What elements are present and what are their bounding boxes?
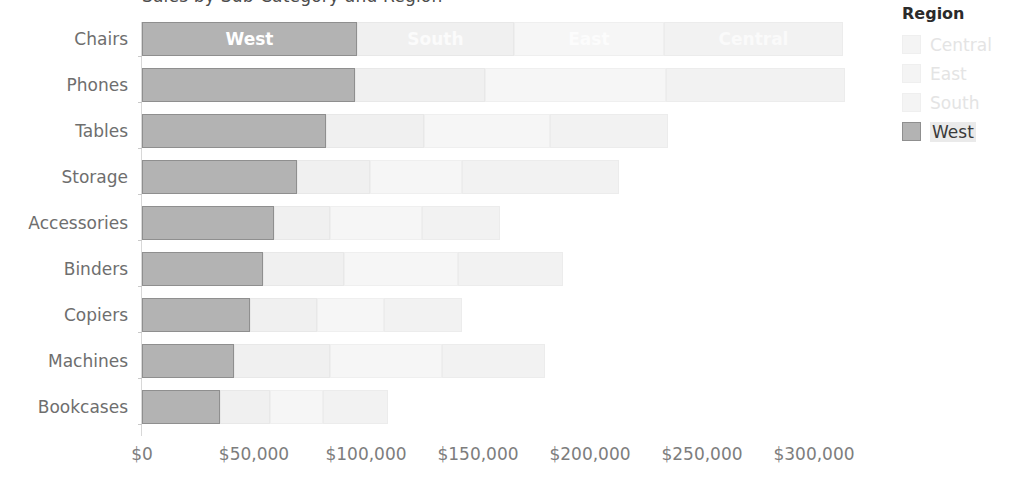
legend-title: Region xyxy=(902,4,1028,23)
bar-segment-south[interactable] xyxy=(234,344,330,378)
legend-swatch-icon xyxy=(902,35,921,54)
bar-segment-east[interactable] xyxy=(370,160,462,194)
bar-segment-east[interactable] xyxy=(330,344,442,378)
plot-area: WestSouthEastCentral xyxy=(142,22,870,434)
legend-swatch-icon xyxy=(902,64,921,83)
bar-row[interactable] xyxy=(142,68,845,102)
y-axis-category-label: Storage xyxy=(0,160,128,194)
y-axis-tick xyxy=(138,286,142,287)
y-axis-tick xyxy=(138,194,142,195)
bar-segment-south[interactable] xyxy=(263,252,344,286)
y-axis-category-label: Tables xyxy=(0,114,128,148)
bar-segment-east[interactable] xyxy=(330,206,422,240)
legend-item-list: CentralEastSouthWest xyxy=(902,32,1028,144)
bar-row[interactable] xyxy=(142,390,388,424)
page-title: Sales by Sub-Category and Region xyxy=(142,0,442,6)
y-axis-tick xyxy=(138,240,142,241)
bar-segment-west[interactable] xyxy=(142,390,220,424)
bar-row[interactable] xyxy=(142,252,563,286)
bar-segment-central[interactable] xyxy=(550,114,669,148)
x-axis-tick-label: $0 xyxy=(131,444,153,464)
y-axis-tick xyxy=(138,148,142,149)
bar-segment-south[interactable] xyxy=(326,114,425,148)
bar-segment-west[interactable] xyxy=(142,160,297,194)
x-axis-tick-label: $50,000 xyxy=(219,444,289,464)
bar-segment-east[interactable]: East xyxy=(514,22,664,56)
y-axis-tick xyxy=(138,102,142,103)
legend-item-east[interactable]: East xyxy=(902,61,1028,86)
bar-segment-label: Central xyxy=(719,29,789,49)
bar-row[interactable] xyxy=(142,298,462,332)
bar-segment-south[interactable] xyxy=(220,390,269,424)
bar-segment-east[interactable] xyxy=(344,252,458,286)
stacked-bar-chart: Sales by Sub-Category and Region WestSou… xyxy=(0,0,1028,494)
bar-segment-west[interactable] xyxy=(142,344,234,378)
bar-row[interactable] xyxy=(142,160,619,194)
bar-segment-south[interactable] xyxy=(355,68,485,102)
bar-segment-label: West xyxy=(226,29,274,49)
x-axis-tick-label: $250,000 xyxy=(661,444,742,464)
bar-segment-south[interactable] xyxy=(297,160,371,194)
bar-segment-west[interactable]: West xyxy=(142,22,357,56)
x-axis-tick-label: $300,000 xyxy=(773,444,854,464)
bar-segment-central[interactable] xyxy=(458,252,563,286)
bar-segment-west[interactable] xyxy=(142,298,250,332)
bar-segment-east[interactable] xyxy=(485,68,666,102)
bar-segment-west[interactable] xyxy=(142,206,274,240)
x-axis-tick-label: $150,000 xyxy=(437,444,518,464)
legend-item-label: West xyxy=(930,122,976,142)
x-axis-tick-label: $200,000 xyxy=(549,444,630,464)
bar-row[interactable] xyxy=(142,114,668,148)
bar-segment-central[interactable] xyxy=(422,206,500,240)
legend-item-central[interactable]: Central xyxy=(902,32,1028,57)
legend-item-south[interactable]: South xyxy=(902,90,1028,115)
legend-item-label: East xyxy=(930,64,967,84)
y-axis-category-label: Accessories xyxy=(0,206,128,240)
y-axis-tick xyxy=(138,378,142,379)
bar-segment-east[interactable] xyxy=(317,298,384,332)
bar-segment-central[interactable] xyxy=(323,390,388,424)
bar-segment-label: East xyxy=(568,29,609,49)
x-axis-tick-label: $100,000 xyxy=(325,444,406,464)
legend-swatch-icon xyxy=(902,93,921,112)
bar-row[interactable] xyxy=(142,344,545,378)
bar-segment-south[interactable] xyxy=(250,298,317,332)
legend-item-label: Central xyxy=(930,35,992,55)
bar-segment-central[interactable] xyxy=(384,298,462,332)
bar-segment-west[interactable] xyxy=(142,252,263,286)
x-axis: $0$50,000$100,000$150,000$200,000$250,00… xyxy=(0,444,1028,474)
y-axis-tick xyxy=(138,332,142,333)
bar-segment-central[interactable] xyxy=(442,344,545,378)
bar-segment-south[interactable] xyxy=(274,206,330,240)
y-axis-tick xyxy=(138,56,142,57)
y-axis-category-label: Machines xyxy=(0,344,128,378)
y-axis-tick xyxy=(138,424,142,425)
y-axis-category-label: Binders xyxy=(0,252,128,286)
bar-segment-central[interactable]: Central xyxy=(664,22,843,56)
y-axis-category-label: Bookcases xyxy=(0,390,128,424)
bar-segment-label: South xyxy=(407,29,463,49)
bar-segment-central[interactable] xyxy=(462,160,619,194)
y-axis-category-label: Chairs xyxy=(0,22,128,56)
bar-segment-west[interactable] xyxy=(142,68,355,102)
y-axis-category-label: Copiers xyxy=(0,298,128,332)
bar-segment-east[interactable] xyxy=(270,390,324,424)
bar-segment-east[interactable] xyxy=(424,114,549,148)
bar-row[interactable] xyxy=(142,206,500,240)
legend-item-label: South xyxy=(930,93,979,113)
bar-row[interactable]: WestSouthEastCentral xyxy=(142,22,843,56)
legend-swatch-icon xyxy=(902,122,921,141)
y-axis-category-label: Phones xyxy=(0,68,128,102)
legend: Region CentralEastSouthWest xyxy=(902,4,1028,148)
legend-item-west[interactable]: West xyxy=(902,119,1028,144)
bar-segment-south[interactable]: South xyxy=(357,22,514,56)
bar-segment-west[interactable] xyxy=(142,114,326,148)
bar-segment-central[interactable] xyxy=(666,68,845,102)
